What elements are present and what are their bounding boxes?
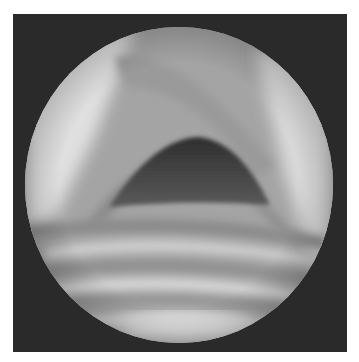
endoscope-view bbox=[25, 27, 333, 343]
image-frame bbox=[13, 14, 347, 352]
tissue-scene bbox=[25, 27, 333, 343]
